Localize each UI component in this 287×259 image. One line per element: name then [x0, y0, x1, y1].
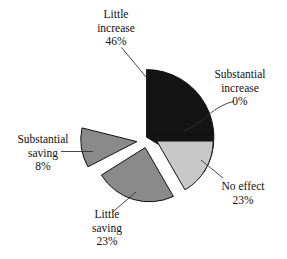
pie-chart: Little increase 46% Substantial increase…: [0, 0, 287, 259]
pie-slice-little-saving[interactable]: [101, 148, 173, 202]
pie-label-little-saving-value: 23%: [70, 235, 144, 249]
pie-label-little-increase: Little increase 46%: [78, 8, 154, 49]
pie-label-no-effect-value: 23%: [203, 194, 283, 208]
pie-label-little-saving-line2: saving: [70, 222, 144, 236]
pie-label-substantial-increase-line1: Substantial: [197, 68, 283, 82]
pie-label-substantial-increase: Substantial increase 0%: [197, 68, 283, 109]
pie-label-no-effect: No effect 23%: [203, 180, 283, 207]
pie-label-substantial-saving-value: 8%: [2, 160, 84, 174]
pie-label-little-increase-value: 46%: [78, 35, 154, 49]
pie-label-substantial-saving-line2: saving: [2, 147, 84, 161]
pie-label-little-increase-line1: Little: [78, 8, 154, 22]
pie-label-little-saving-line1: Little: [70, 208, 144, 222]
pie-label-substantial-saving: Substantial saving 8%: [2, 133, 84, 174]
pie-label-substantial-increase-line2: increase: [197, 82, 283, 96]
pie-label-substantial-saving-line1: Substantial: [2, 133, 84, 147]
pie-label-no-effect-line1: No effect: [203, 180, 283, 194]
pie-label-little-increase-line2: increase: [78, 22, 154, 36]
pie-label-substantial-increase-value: 0%: [197, 95, 283, 109]
pie-label-little-saving: Little saving 23%: [70, 208, 144, 249]
leader-line-little-increase: [122, 48, 147, 78]
